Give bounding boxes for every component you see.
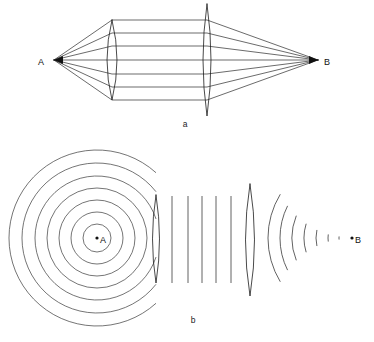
optics-figure-svg: A B a A B b	[0, 0, 374, 342]
point-label-b-panel-a: B	[324, 57, 330, 67]
point-label-b-panel-b: B	[355, 235, 361, 245]
ray-0	[54, 20, 318, 60]
point-label-a-panel-b: A	[100, 235, 106, 245]
point-dot-b-panel-b	[350, 236, 353, 239]
point-label-a-panel-a: A	[38, 57, 44, 67]
spherical-wavefront-6	[9, 150, 156, 326]
converging-wavefront-3	[304, 224, 306, 253]
converging-wavefronts-to-b	[268, 194, 339, 282]
spherical-wavefronts-from-a	[9, 150, 156, 326]
point-dot-a-panel-b	[95, 236, 98, 239]
optics-figure: A B a A B b	[0, 0, 374, 342]
ray-bundle	[54, 20, 318, 100]
converging-wavefront-4	[316, 230, 317, 246]
converging-wavefront-0	[268, 194, 280, 282]
converging-wavefront-2	[292, 216, 296, 261]
spherical-wavefront-5	[22, 163, 156, 313]
panel-b-caption: b	[191, 315, 196, 325]
panel-a: A B a	[38, 4, 330, 129]
ray-4	[54, 60, 318, 74]
plane-wavefronts	[172, 196, 231, 283]
lens-2-panel-b	[246, 184, 255, 296]
ray-5	[54, 60, 318, 87]
lens-1-panel-b	[153, 195, 160, 283]
ray-6	[54, 60, 318, 100]
panel-b: A B b	[9, 150, 361, 326]
panel-a-caption: a	[183, 119, 188, 129]
ray-1	[54, 33, 318, 60]
converging-wavefront-1	[280, 206, 288, 270]
arrowhead-at-b	[309, 56, 318, 64]
ray-2	[54, 46, 318, 60]
